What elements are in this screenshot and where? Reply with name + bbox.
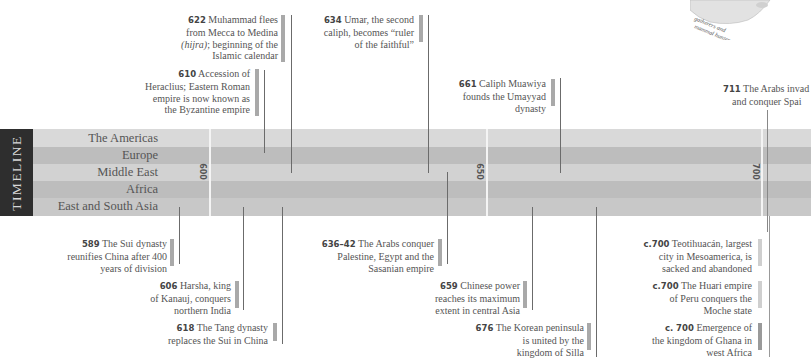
map-fragment-illustration: gatherers and mammal hunters (690, 0, 811, 40)
connector-700 (769, 216, 770, 357)
event-676: 676 The Korean peninsula is united by th… (470, 322, 584, 358)
marker-c700-ghana (758, 323, 762, 350)
marker-618 (273, 323, 277, 341)
connector-659 (532, 207, 533, 310)
band-label-middle-east: Middle East (33, 164, 158, 181)
divider-650 (486, 129, 488, 216)
connector-636 (447, 172, 448, 264)
year-label-600: 600 (198, 163, 207, 180)
connector-606 (243, 207, 244, 310)
marker-659 (523, 281, 527, 308)
marker-622 (281, 15, 285, 62)
timeline-label-strip: TIMELINE (0, 129, 33, 216)
band-label-east-south-asia: East and South Asia (33, 198, 158, 215)
year-label-700: 700 (751, 163, 760, 180)
event-618: 618 The Tang dynasty replaces the Sui in… (150, 322, 268, 347)
marker-589 (170, 239, 174, 266)
event-c700-huari: c.700 The Huari empire of Peru conquers … (640, 280, 752, 316)
event-610: 610 Accession of Heraclius; Eastern Roma… (110, 68, 250, 116)
marker-634 (419, 15, 423, 42)
connector-676 (596, 207, 597, 357)
event-659: 659 Chinese power reaches its maximum ex… (420, 280, 520, 316)
event-661: 661 Caliph Muawiya founds the Umayyad dy… (440, 78, 546, 114)
event-622: 622 Muhammad flees from Mecca to Medina … (140, 14, 278, 62)
marker-c700-huari (758, 281, 762, 308)
marker-606 (235, 281, 239, 308)
event-c700-ghana: c. 700 Emergence of the kingdom of Ghana… (630, 322, 752, 358)
marker-c700-teotihuacan (758, 239, 762, 266)
connector-711 (767, 110, 768, 232)
divider-700 (761, 129, 763, 216)
year-label-650: 650 (475, 163, 484, 180)
connector-589 (179, 207, 180, 264)
marker-661 (551, 79, 555, 106)
band-label-africa: Africa (33, 181, 158, 198)
divider-600 (209, 129, 211, 216)
connector-661 (560, 78, 561, 173)
connector-610 (264, 70, 265, 153)
event-634: 634 Umar, the second caliph, becomes “ru… (300, 14, 414, 50)
event-636-42: 636–42 The Arabs conquer Palestine, Egyp… (300, 238, 434, 274)
connector-622 (291, 15, 292, 173)
event-589: 589 The Sui dynasty reunifies China afte… (40, 238, 167, 274)
band-label-americas: The Americas (33, 130, 158, 147)
connector-618 (282, 207, 283, 344)
marker-636-42 (438, 239, 442, 266)
connector-634 (428, 15, 429, 173)
timeline-title: TIMELINE (9, 135, 25, 211)
event-606: 606 Harsha, king of Kanauj, conquers nor… (130, 280, 231, 316)
band-label-europe: Europe (33, 147, 158, 164)
event-c700-teotihuacan: c.700 Teotihuacán, largest city in Mesoa… (630, 238, 752, 274)
marker-676 (587, 323, 591, 350)
marker-610 (255, 69, 259, 116)
event-711: 711 The Arabs invad and conquer Spai (700, 83, 811, 108)
